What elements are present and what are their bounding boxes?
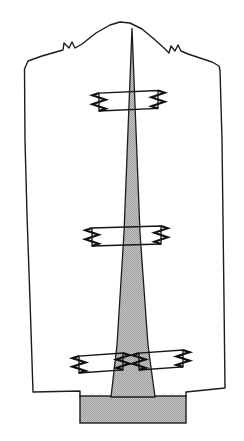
trim-marker-lower-left	[73, 353, 130, 373]
pattern-diagram-svg: Pattern piece with shaded center gore an…	[0, 0, 244, 441]
trim-marker-upper	[93, 91, 165, 112]
trim-placement-band	[99, 91, 158, 112]
shaded-base-tab	[80, 396, 186, 423]
figure-root: Pattern piece with shaded center gore an…	[0, 0, 244, 441]
trim-marker-lower-right	[133, 350, 190, 370]
trim-placement-band	[92, 226, 161, 246]
trim-marker-middle	[86, 226, 168, 246]
